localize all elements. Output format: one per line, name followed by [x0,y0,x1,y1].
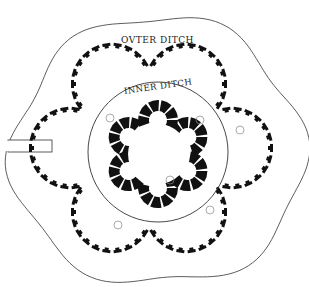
site-plan-diagram: OVTER DITCH INNER DITCH [0,0,309,287]
inner-fortress [109,100,208,208]
outer-ditch-label: OVTER DITCH [121,35,194,45]
